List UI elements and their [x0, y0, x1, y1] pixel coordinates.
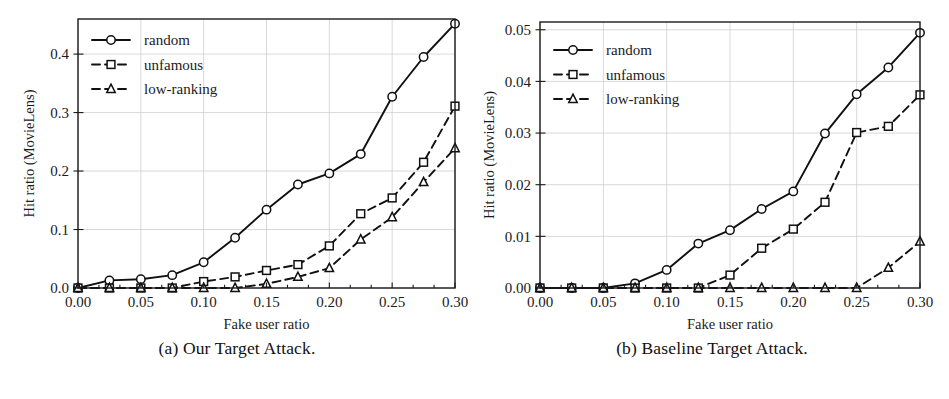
legend-label-random: random	[606, 42, 652, 58]
data-point-unfamous	[420, 158, 428, 166]
data-point-random	[325, 169, 333, 177]
y-tick-label: 0.01	[505, 229, 531, 245]
chart-panel-b: 0.000.050.100.150.200.250.300.000.010.02…	[475, 0, 949, 399]
data-point-unfamous	[231, 273, 239, 281]
legend-label-low-ranking: low-ranking	[606, 91, 680, 107]
x-tick-label: 0.20	[316, 294, 342, 310]
y-axis-title: Hit ratio (MovieLens)	[481, 91, 498, 219]
data-point-unfamous	[789, 225, 797, 233]
data-point-random	[294, 180, 302, 188]
data-point-low-ranking	[357, 235, 365, 243]
legend-item-low-ranking[interactable]: low-ranking	[92, 81, 218, 97]
data-point-low-ranking	[325, 263, 333, 271]
x-tick-label: 0.25	[844, 294, 870, 310]
data-point-unfamous	[726, 271, 734, 279]
data-point-random	[757, 205, 765, 213]
legend: randomunfamouslow-ranking	[554, 42, 680, 107]
legend-marker-unfamous	[107, 61, 115, 69]
data-point-unfamous	[853, 129, 861, 137]
x-tick-label: 0.00	[65, 294, 91, 310]
tick-marks	[536, 30, 921, 288]
data-point-random	[726, 226, 734, 234]
tick-labels: 0.000.050.100.150.200.250.300.00.10.20.3…	[50, 46, 468, 310]
legend-item-low-ranking[interactable]: low-ranking	[554, 91, 680, 107]
x-tick-label: 0.10	[191, 294, 217, 310]
chart-a-svg: 0.000.050.100.150.200.250.300.00.10.20.3…	[0, 0, 474, 340]
x-tick-label: 0.15	[717, 294, 743, 310]
chart-panel-a: 0.000.050.100.150.200.250.300.00.10.20.3…	[0, 0, 474, 399]
data-point-random	[168, 271, 176, 279]
y-tick-label: 0.4	[50, 46, 69, 62]
y-tick-label: 0.02	[505, 177, 531, 193]
legend-label-unfamous: unfamous	[144, 57, 203, 73]
data-point-unfamous	[325, 242, 333, 250]
x-tick-label: 0.05	[128, 294, 154, 310]
data-point-unfamous	[388, 194, 396, 202]
data-point-unfamous	[294, 261, 302, 269]
data-point-random	[231, 234, 239, 242]
chart-b-svg: 0.000.050.100.150.200.250.300.000.010.02…	[475, 0, 949, 340]
data-point-unfamous	[758, 244, 766, 252]
x-tick-label: 0.20	[780, 294, 806, 310]
legend-marker-unfamous	[569, 71, 577, 79]
gridlines	[540, 22, 920, 288]
y-tick-label: 0.05	[505, 22, 531, 38]
x-tick-label: 0.05	[590, 294, 616, 310]
x-tick-label: 0.30	[442, 294, 468, 310]
data-point-random	[884, 63, 892, 71]
legend-item-unfamous[interactable]: unfamous	[92, 57, 203, 73]
gridlines	[78, 19, 455, 288]
legend-marker-random	[107, 36, 115, 44]
data-point-random	[199, 258, 207, 266]
data-point-unfamous	[884, 122, 892, 130]
legend: randomunfamouslow-ranking	[92, 32, 218, 97]
y-tick-label: 0.3	[50, 105, 69, 121]
legend-label-random: random	[144, 32, 190, 48]
data-point-random	[262, 205, 270, 213]
x-axis-title: Fake user ratio	[687, 316, 773, 332]
data-point-random	[357, 150, 365, 158]
data-point-low-ranking	[419, 177, 427, 185]
data-point-random	[419, 53, 427, 61]
x-tick-label: 0.30	[907, 294, 933, 310]
y-tick-label: 0.03	[505, 125, 531, 141]
data-point-random	[388, 93, 396, 101]
y-axis-title: Hit ratio (MovieLens)	[21, 89, 38, 217]
x-tick-label: 0.25	[379, 294, 405, 310]
data-point-unfamous	[821, 198, 829, 206]
caption-panel-a: (a) Our Target Attack.	[0, 338, 474, 359]
data-point-random	[821, 129, 829, 137]
caption-panel-b: (b) Baseline Target Attack.	[475, 338, 949, 359]
data-point-random	[852, 90, 860, 98]
data-point-random	[694, 239, 702, 247]
data-point-unfamous	[357, 210, 365, 218]
data-point-random	[662, 266, 670, 274]
y-tick-label: 0.04	[505, 74, 532, 90]
y-tick-label: 0.00	[505, 280, 531, 296]
x-tick-label: 0.00	[527, 294, 553, 310]
tick-labels: 0.000.050.100.150.200.250.300.000.010.02…	[505, 22, 933, 310]
x-axis-title: Fake user ratio	[223, 316, 309, 332]
data-point-unfamous	[263, 267, 271, 275]
y-tick-label: 0.2	[50, 163, 69, 179]
legend-item-unfamous[interactable]: unfamous	[554, 67, 665, 83]
data-point-random	[789, 187, 797, 195]
legend-marker-random	[569, 46, 577, 54]
figure-container: 0.000.050.100.150.200.250.300.00.10.20.3…	[0, 0, 949, 399]
legend-label-low-ranking: low-ranking	[144, 81, 218, 97]
x-tick-label: 0.10	[654, 294, 680, 310]
legend-label-unfamous: unfamous	[606, 67, 665, 83]
y-tick-label: 0.1	[50, 222, 69, 238]
x-tick-label: 0.15	[253, 294, 279, 310]
y-tick-label: 0.0	[50, 280, 69, 296]
